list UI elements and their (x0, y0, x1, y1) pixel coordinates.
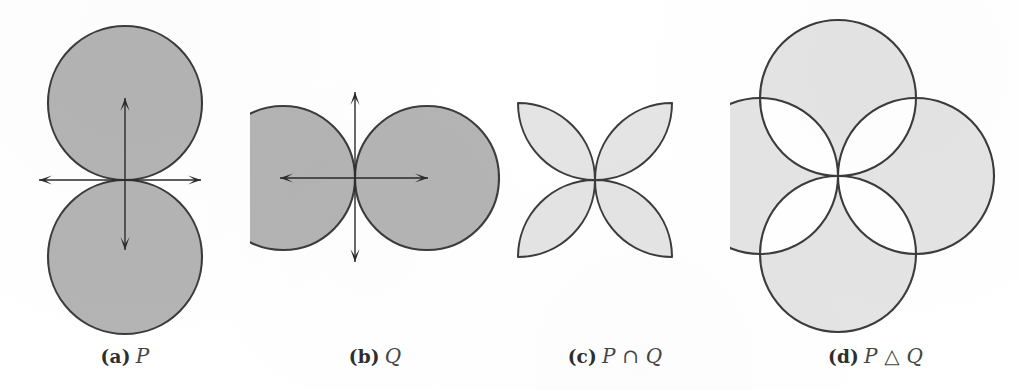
panel-p-symdiff-q-canvas (730, 0, 1021, 340)
panel-p-symdiff-q: (d)P △ Q (730, 0, 1021, 390)
caption-tag-d: (d) (828, 346, 859, 367)
figure-root: (a)P (b)Q (c)P ∩ Q (d)P △ Q (0, 0, 1021, 390)
petal-upper-left (518, 103, 595, 180)
petal-lower-right (595, 180, 672, 257)
caption-panel-p-intersect-q: (c)P ∩ Q (500, 344, 730, 368)
caption-label-d: P △ Q (864, 344, 923, 368)
panel-p: (a)P (0, 0, 250, 390)
caption-panel-p: (a)P (0, 344, 250, 368)
petal-upper-right (595, 103, 672, 180)
caption-panel-q: (b)Q (250, 344, 500, 368)
panel-p-intersect-q-canvas (500, 0, 730, 340)
panel-p-intersect-q: (c)P ∩ Q (500, 0, 730, 390)
petal-lower-left (518, 180, 595, 257)
caption-label-b: Q (385, 344, 402, 368)
caption-tag-c: (c) (568, 346, 597, 367)
caption-tag-b: (b) (349, 346, 380, 367)
caption-tag-a: (a) (101, 346, 131, 367)
panel-q: (b)Q (250, 0, 500, 390)
panel-q-canvas (250, 0, 500, 340)
panel-p-canvas (0, 0, 250, 340)
caption-label-c: P ∩ Q (602, 344, 662, 368)
caption-panel-p-symdiff-q: (d)P △ Q (730, 344, 1021, 368)
caption-label-a: P (136, 344, 150, 368)
